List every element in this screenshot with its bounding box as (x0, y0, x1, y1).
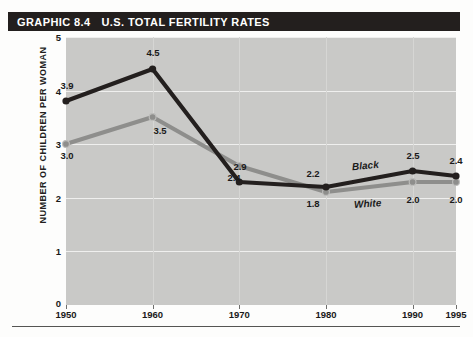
point-label-white-1970: 2.4 (221, 172, 247, 183)
graphic-title-prefix: GRAPHIC 8.4 (17, 16, 90, 28)
point-label-black-1990: 2.5 (400, 150, 426, 161)
y-tick-2: 2 (47, 193, 61, 204)
point-label-black-1995: 2.4 (443, 155, 469, 166)
point-label-white-1950: 3.0 (54, 150, 80, 161)
series-label-black: Black (352, 159, 380, 172)
point-label-black-1970: 2.9 (227, 161, 253, 172)
gridline-y-3 (66, 144, 456, 145)
y-tick-3: 3 (47, 139, 61, 150)
gridline-y-1 (66, 251, 456, 252)
gridline-x-1990 (413, 37, 414, 305)
point-label-white-1990: 2.0 (400, 194, 426, 205)
plot-area (66, 37, 456, 305)
y-tick-5: 5 (47, 32, 61, 43)
graphic-title-text: U.S. TOTAL FERTILITY RATES (101, 16, 269, 28)
figure-container: GRAPHIC 8.4 U.S. TOTAL FERTILITY RATES N… (0, 0, 473, 337)
gridline-x-1960 (153, 37, 154, 305)
x-tick-1980: 1980 (301, 309, 351, 320)
bottom-rule (12, 326, 460, 327)
point-label-black-1980: 2.2 (300, 168, 326, 179)
gridline-x-1980 (326, 37, 327, 305)
x-tick-1950: 1950 (41, 309, 91, 320)
point-label-white-1960: 3.5 (147, 125, 173, 136)
y-tick-0: 0 (47, 298, 61, 309)
x-tick-1970: 1970 (214, 309, 264, 320)
x-tick-1995: 1995 (431, 309, 473, 320)
y-tick-1: 1 (47, 246, 61, 257)
point-label-white-1980: 1.8 (300, 198, 326, 209)
point-label-black-1950: 3.9 (54, 80, 80, 91)
series-label-white: White (354, 197, 382, 210)
point-label-white-1995: 2.0 (443, 194, 469, 205)
gridline-y-4 (66, 91, 456, 92)
y-axis-title: NUMBER OF CHILDREN PER WOMAN (38, 30, 48, 240)
graphic-title-bar: GRAPHIC 8.4 U.S. TOTAL FERTILITY RATES (8, 12, 460, 31)
gridline-y-2 (66, 198, 456, 199)
point-label-black-1960: 4.5 (140, 47, 166, 58)
x-tick-1960: 1960 (128, 309, 178, 320)
gridline-y-5 (66, 37, 456, 38)
